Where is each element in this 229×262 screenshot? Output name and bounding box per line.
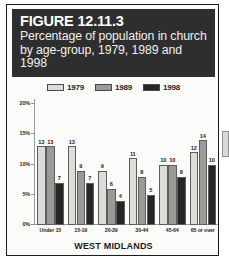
bar-value-label: 14 <box>200 133 206 139</box>
bars-region: 131371397964118510108121410 <box>35 99 218 225</box>
bar-wrap: 8 <box>138 99 147 225</box>
bar-value-label: 11 <box>130 151 136 157</box>
bar-value-label: 13 <box>38 139 44 145</box>
bar-1998-0 <box>55 183 64 225</box>
bar-1989-0 <box>46 146 55 225</box>
y-tick-label-0: 0% <box>22 221 30 227</box>
bar-wrap: 9 <box>77 99 86 225</box>
bar-1989-1 <box>77 171 86 225</box>
legend-label-1979: 1979 <box>67 83 84 92</box>
figure-header: FIGURE 12.11.3 Percentage of population … <box>12 9 215 77</box>
page-edge-tab <box>222 131 229 157</box>
bar-1989-2 <box>107 189 116 225</box>
figure-number: FIGURE 12.11.3 <box>20 13 208 29</box>
chart-legend: 197919891998 <box>7 83 219 92</box>
y-axis: 0%5%10%15%20% <box>7 99 34 225</box>
bar-wrap: 7 <box>86 99 95 225</box>
bar-value-label: 8 <box>140 169 143 175</box>
bar-wrap: 4 <box>116 99 125 225</box>
category-label-1: 15-19 <box>66 227 96 233</box>
legend-swatch-1979 <box>47 84 64 91</box>
bar-group-5: 121410 <box>190 99 217 225</box>
bar-group-1: 1397 <box>68 99 95 225</box>
bar-value-label: 4 <box>119 193 122 199</box>
category-label-2: 20-29 <box>96 227 126 233</box>
bar-1989-5 <box>199 140 208 225</box>
bar-1979-5 <box>190 152 199 225</box>
bar-wrap: 8 <box>177 99 186 225</box>
bar-1989-4 <box>168 165 177 226</box>
bar-value-label: 13 <box>47 139 53 145</box>
category-label-3: 30-44 <box>127 227 157 233</box>
bar-1998-2 <box>116 201 125 225</box>
bar-1979-3 <box>129 158 138 225</box>
legend-label-1998: 1998 <box>163 83 180 92</box>
bar-wrap: 13 <box>68 99 77 225</box>
bar-value-label: 7 <box>88 175 91 181</box>
legend-entry-1998: 1998 <box>143 83 180 92</box>
bar-wrap: 7 <box>55 99 64 225</box>
bar-value-label: 10 <box>169 157 175 163</box>
y-tick-label-10: 10% <box>20 161 31 167</box>
bar-wrap: 10 <box>159 99 168 225</box>
bar-value-label: 12 <box>191 145 197 151</box>
legend-entry-1989: 1989 <box>95 83 132 92</box>
plot-area: 0%5%10%15%20% 13137139796411851010812141… <box>7 99 219 225</box>
bar-value-label: 8 <box>180 169 183 175</box>
y-tick-label-15: 15% <box>20 130 31 136</box>
bar-wrap: 13 <box>37 99 46 225</box>
bar-group-2: 964 <box>98 99 125 225</box>
bar-group-4: 10108 <box>159 99 186 225</box>
bar-1998-1 <box>86 183 95 225</box>
bar-1979-0 <box>37 146 46 225</box>
y-tick-label-5: 5% <box>22 191 30 197</box>
bar-value-label: 10 <box>160 157 166 163</box>
bar-wrap: 11 <box>129 99 138 225</box>
footer-label: WEST MIDLANDS <box>7 241 219 251</box>
bar-value-label: 6 <box>110 181 113 187</box>
bar-1979-4 <box>159 165 168 226</box>
bar-wrap: 5 <box>147 99 156 225</box>
category-label-0: Under 15 <box>35 227 65 233</box>
bar-1998-4 <box>177 177 186 225</box>
bar-1979-1 <box>68 146 77 225</box>
bar-1979-2 <box>98 171 107 225</box>
legend-label-1989: 1989 <box>115 83 132 92</box>
y-tick-label-20: 20% <box>20 100 31 106</box>
bar-group-0: 13137 <box>37 99 64 225</box>
legend-swatch-1989 <box>95 84 112 91</box>
bar-wrap: 10 <box>168 99 177 225</box>
figure-card: FIGURE 12.11.3 Percentage of population … <box>6 4 219 256</box>
bar-value-label: 13 <box>69 139 75 145</box>
bar-1998-5 <box>208 165 217 226</box>
legend-entry-1979: 1979 <box>47 83 84 92</box>
bar-wrap: 9 <box>98 99 107 225</box>
category-label-4: 45-64 <box>157 227 187 233</box>
bar-wrap: 14 <box>199 99 208 225</box>
legend-swatch-1998 <box>143 84 160 91</box>
bar-1998-3 <box>147 195 156 225</box>
category-axis: Under 1515-1920-2930-4445-6465 or over <box>35 227 218 233</box>
bar-wrap: 6 <box>107 99 116 225</box>
bar-value-label: 7 <box>58 175 61 181</box>
figure-caption: Percentage of population in church by ag… <box>20 30 208 71</box>
category-label-5: 65 or over <box>188 227 218 233</box>
bar-wrap: 12 <box>190 99 199 225</box>
bar-1989-3 <box>138 177 147 225</box>
bar-wrap: 13 <box>46 99 55 225</box>
bar-value-label: 5 <box>149 187 152 193</box>
bar-wrap: 10 <box>208 99 217 225</box>
bar-value-label: 9 <box>101 163 104 169</box>
bar-value-label: 9 <box>79 163 82 169</box>
bar-value-label: 10 <box>209 157 215 163</box>
bar-group-3: 1185 <box>129 99 156 225</box>
